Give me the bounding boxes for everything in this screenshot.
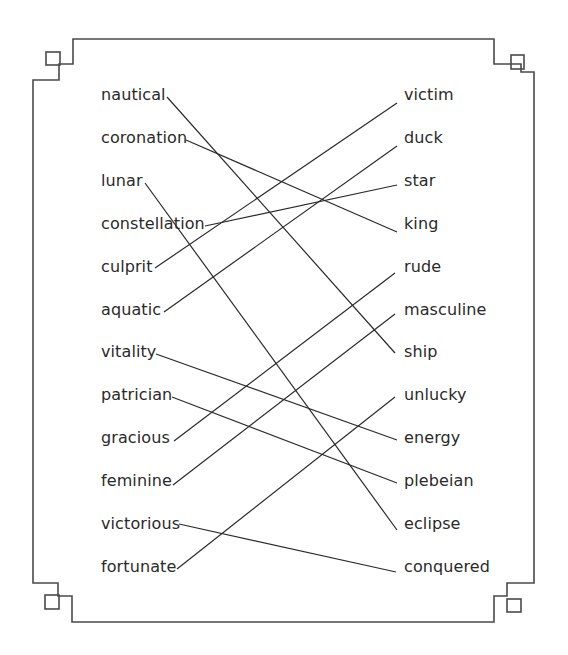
- left-word-nautical[interactable]: nautical: [101, 85, 166, 105]
- connection-patrician-plebeian: [172, 397, 397, 483]
- connection-gracious-rude: [174, 273, 395, 441]
- left-word-gracious[interactable]: gracious: [101, 428, 170, 448]
- right-word-conquered[interactable]: conquered: [404, 557, 490, 577]
- left-word-vitality[interactable]: vitality: [101, 342, 156, 362]
- right-word-eclipse[interactable]: eclipse: [404, 514, 461, 534]
- left-word-fortunate[interactable]: fortunate: [101, 557, 176, 577]
- corner-square-top-right: [511, 55, 524, 69]
- right-word-victim[interactable]: victim: [404, 85, 454, 105]
- connection-lines: [145, 97, 397, 572]
- right-word-unlucky[interactable]: unlucky: [404, 385, 467, 405]
- left-word-culprit[interactable]: culprit: [101, 257, 153, 277]
- matching-worksheet: nauticalcoronationlunarconstellationculp…: [0, 0, 568, 655]
- left-word-victorious[interactable]: victorious: [101, 514, 180, 534]
- right-word-rude[interactable]: rude: [404, 257, 441, 277]
- right-word-energy[interactable]: energy: [404, 428, 460, 448]
- right-word-duck[interactable]: duck: [404, 128, 443, 148]
- right-word-ship[interactable]: ship: [404, 342, 437, 362]
- left-word-constellation[interactable]: constellation: [101, 214, 205, 234]
- corner-square-bottom-right: [507, 599, 521, 612]
- connection-victorious-conquered: [179, 524, 396, 572]
- left-word-feminine[interactable]: feminine: [101, 471, 172, 491]
- right-word-king[interactable]: king: [404, 214, 438, 234]
- right-word-star[interactable]: star: [404, 171, 435, 191]
- connection-feminine-masculine: [173, 314, 395, 485]
- left-word-aquatic[interactable]: aquatic: [101, 300, 161, 320]
- left-word-lunar[interactable]: lunar: [101, 171, 143, 191]
- frame-border: [33, 39, 534, 622]
- right-word-plebeian[interactable]: plebeian: [404, 471, 474, 491]
- right-word-masculine[interactable]: masculine: [404, 300, 486, 320]
- corner-square-bottom-left: [45, 595, 59, 609]
- corner-square-top-left: [46, 52, 60, 65]
- left-word-patrician[interactable]: patrician: [101, 385, 172, 405]
- connection-coronation-king: [186, 140, 397, 232]
- left-word-coronation[interactable]: coronation: [101, 128, 187, 148]
- connection-culprit-victim: [155, 103, 397, 268]
